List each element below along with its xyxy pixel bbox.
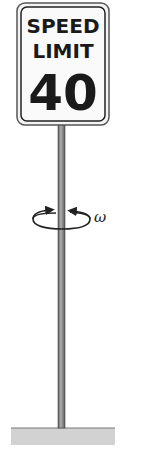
sign-speed-value: 40 (28, 64, 98, 122)
angular-velocity-label: ω (94, 208, 106, 226)
ground (11, 428, 115, 445)
speed-limit-sign: SPEED LIMIT 40 (17, 3, 109, 125)
sign-line-speed: SPEED (27, 14, 100, 38)
sign-line-limit: LIMIT (32, 39, 94, 63)
speed-sign-diagram: SPEED LIMIT 40 ω (0, 0, 143, 452)
pole (58, 122, 65, 428)
